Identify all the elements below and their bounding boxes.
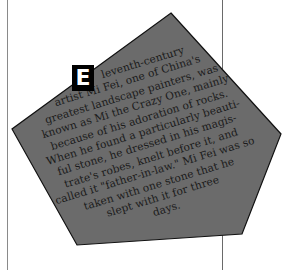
drop-cap-letter: E [72,65,94,91]
